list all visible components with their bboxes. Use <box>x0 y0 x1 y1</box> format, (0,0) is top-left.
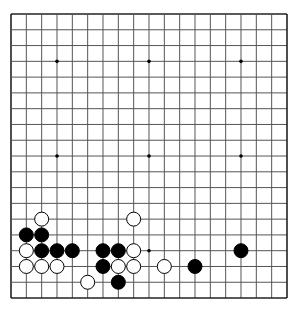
black-stone[interactable] <box>35 228 49 242</box>
black-stone[interactable] <box>111 244 125 258</box>
black-stone[interactable] <box>96 244 110 258</box>
white-stone[interactable] <box>157 259 171 273</box>
star-point <box>239 154 243 158</box>
go-board[interactable] <box>0 0 295 309</box>
white-stone[interactable] <box>111 259 125 273</box>
white-stone[interactable] <box>127 212 141 226</box>
black-stone[interactable] <box>50 244 64 258</box>
white-stone[interactable] <box>127 244 141 258</box>
black-stone[interactable] <box>19 228 33 242</box>
white-stone[interactable] <box>35 259 49 273</box>
black-stone[interactable] <box>65 244 79 258</box>
black-stone[interactable] <box>111 275 125 289</box>
white-stone[interactable] <box>50 259 64 273</box>
white-stone[interactable] <box>19 259 33 273</box>
star-point <box>55 60 59 64</box>
white-stone[interactable] <box>19 244 33 258</box>
white-stone[interactable] <box>127 259 141 273</box>
white-stone[interactable] <box>35 212 49 226</box>
black-stone[interactable] <box>234 244 248 258</box>
black-stone[interactable] <box>188 259 202 273</box>
black-stone[interactable] <box>96 259 110 273</box>
star-point <box>147 154 151 158</box>
star-point <box>55 154 59 158</box>
black-stone[interactable] <box>35 244 49 258</box>
star-point <box>147 249 151 253</box>
star-point <box>239 60 243 64</box>
white-stone[interactable] <box>81 275 95 289</box>
star-point <box>147 60 151 64</box>
